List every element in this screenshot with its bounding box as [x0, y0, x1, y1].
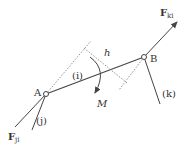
member-i-line [46, 57, 144, 94]
joint-b-icon [142, 55, 147, 60]
label-point-b: B [150, 53, 157, 64]
diagram-canvas: A B (i) (j) (k) h M Fki Fji [0, 0, 189, 147]
label-member-i: (i) [72, 70, 83, 81]
label-moment: M [96, 98, 108, 109]
member-k-line [144, 57, 160, 104]
label-point-a: A [33, 87, 42, 98]
joint-a-icon [44, 92, 49, 97]
label-force-ji: Fji [8, 131, 20, 144]
label-force-ki: Fki [160, 7, 174, 20]
label-member-k: (k) [162, 88, 176, 99]
label-member-j: (j) [36, 115, 47, 126]
label-distance-h: h [104, 47, 110, 58]
force-ki-arrow [144, 22, 177, 57]
